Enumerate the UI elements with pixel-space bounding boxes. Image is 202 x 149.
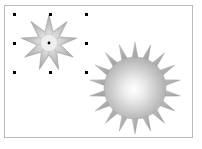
handle-bottom-center[interactable] (49, 71, 52, 74)
handle-middle-left[interactable] (13, 42, 16, 45)
handle-bottom-left[interactable] (13, 71, 16, 74)
handle-top-right[interactable] (85, 13, 88, 16)
handle-top-left[interactable] (13, 13, 16, 16)
handle-middle-right[interactable] (85, 42, 88, 45)
drawing-canvas[interactable]: Nine Point Star Eighteen Ray Sun (0, 0, 202, 149)
handle-bottom-right[interactable] (85, 71, 88, 74)
selection-handles (0, 0, 202, 149)
handle-top-center[interactable] (49, 13, 52, 16)
